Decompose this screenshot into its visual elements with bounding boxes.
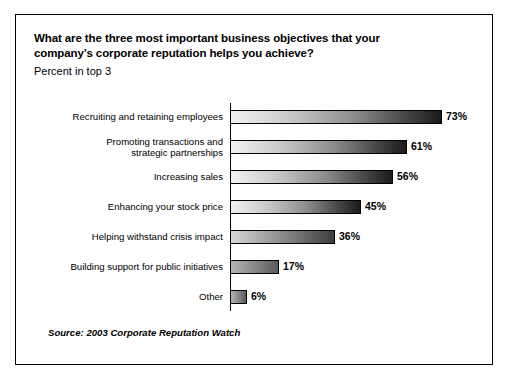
table-row: Helping withstand crisis impact 36% (34, 223, 476, 251)
bar-area: 6% (230, 283, 476, 311)
table-row: Increasing sales 56% (34, 163, 476, 191)
bar-area: 17% (230, 253, 476, 281)
table-row: Promoting transactions and strategic par… (34, 133, 476, 161)
bar-area: 36% (230, 223, 476, 251)
chart-subtitle: Percent in top 3 (34, 64, 464, 78)
chart-title-line-1: What are the three most important busine… (34, 31, 464, 46)
category-label: Recruiting and retaining employees (34, 111, 230, 123)
bar-area: 61% (230, 133, 476, 161)
bar-enhancing-your-stock-price (230, 200, 361, 214)
chart-title-line-2: company’s corporate reputation helps you… (34, 46, 464, 61)
bar-helping-withstand-crisis-impact (230, 230, 335, 244)
bar-value-label: 6% (251, 289, 266, 304)
bar-other (230, 290, 247, 304)
category-label: Helping withstand crisis impact (34, 231, 230, 243)
category-label: Other (34, 291, 230, 303)
bar-value-label: 56% (397, 169, 418, 184)
bar-area: 73% (230, 103, 476, 131)
bar-promoting-transactions-and-strategic-partnerships (230, 140, 407, 154)
bar-building-support-for-public-initiatives (230, 260, 279, 274)
chart-title-block: What are the three most important busine… (34, 31, 464, 78)
table-row: Recruiting and retaining employees 73% (34, 103, 476, 131)
category-label: Promoting transactions and strategic par… (34, 136, 230, 159)
bar-value-label: 73% (446, 109, 467, 124)
bar-area: 45% (230, 193, 476, 221)
chart-page: What are the three most important busine… (0, 0, 508, 381)
bar-recruiting-and-retaining-employees (230, 110, 442, 124)
table-row: Building support for public initiatives … (34, 253, 476, 281)
bar-area: 56% (230, 163, 476, 191)
bar-value-label: 36% (339, 229, 360, 244)
category-label: Increasing sales (34, 171, 230, 183)
table-row: Enhancing your stock price 45% (34, 193, 476, 221)
bar-increasing-sales (230, 170, 393, 184)
table-row: Other 6% (34, 283, 476, 311)
category-label: Enhancing your stock price (34, 201, 230, 213)
bar-chart-plot: Recruiting and retaining employees 73% P… (34, 103, 476, 311)
chart-frame: What are the three most important busine… (15, 14, 493, 365)
bar-value-label: 17% (283, 259, 304, 274)
bar-value-label: 45% (365, 199, 386, 214)
source-note: Source: 2003 Corporate Reputation Watch (48, 327, 240, 338)
bar-value-label: 61% (411, 139, 432, 154)
category-label: Building support for public initiatives (34, 261, 230, 273)
